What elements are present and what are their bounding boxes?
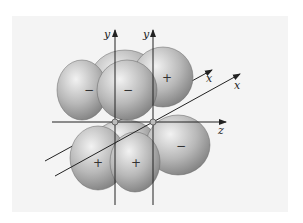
- label-x-back: x: [206, 72, 213, 85]
- sign-lower-left: +: [93, 156, 103, 170]
- sign-upper-right: +: [162, 71, 172, 85]
- label-x-front: x: [234, 79, 241, 92]
- label-y-left: y: [103, 28, 111, 41]
- label-y-right: y: [142, 28, 150, 41]
- nucleus-left: [112, 119, 118, 125]
- sign-lower-middle: +: [131, 156, 141, 170]
- sign-upper-left: −: [84, 83, 94, 97]
- sign-lower-right: −: [176, 139, 186, 153]
- nucleus-right: [150, 119, 156, 125]
- label-z: z: [217, 124, 224, 137]
- orbital-diagram: y y x x z − − + + + −: [0, 0, 303, 223]
- sign-upper-middle: −: [123, 83, 133, 97]
